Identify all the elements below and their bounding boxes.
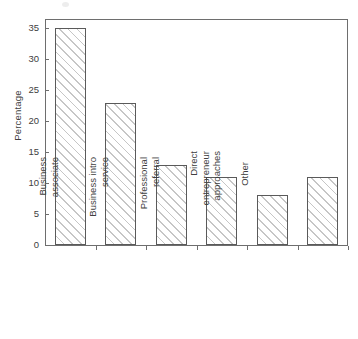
x-axis-tick-mark xyxy=(247,246,248,250)
x-tick-label-line: Other xyxy=(239,162,251,246)
y-tick-label: 10 xyxy=(0,177,39,188)
x-tick-label-line: Professional xyxy=(138,157,150,241)
y-tick-mark xyxy=(45,28,49,29)
x-tick-label-line: associate xyxy=(48,157,60,241)
x-axis-tick-mark xyxy=(96,246,97,250)
y-tick-mark xyxy=(45,152,49,153)
x-tick-label-line: entrepreneur xyxy=(200,151,212,235)
bar-chart-figure: Percentage 05101520253035 Friends/family… xyxy=(0,0,358,339)
x-axis-tick-mark xyxy=(298,246,299,250)
x-tick-label-line: Business intro xyxy=(87,157,99,241)
y-tick-mark xyxy=(45,121,49,122)
x-tick-label-line: Direct xyxy=(188,151,200,235)
scan-artifact-speck xyxy=(62,2,69,7)
y-tick-label: 20 xyxy=(0,115,39,126)
x-axis-tick-mark xyxy=(197,246,198,250)
x-tick-label-line: service xyxy=(99,157,111,241)
y-tick-label: 30 xyxy=(0,53,39,64)
x-tick-label-line: Business xyxy=(37,157,49,241)
x-axis-tick-mark xyxy=(146,246,147,250)
x-tick-label-line: approaches xyxy=(211,151,223,235)
bar xyxy=(257,195,288,245)
y-tick-mark xyxy=(45,245,49,246)
x-axis-tick-mark xyxy=(348,246,349,250)
bar xyxy=(307,177,338,245)
y-tick-mark xyxy=(45,59,49,60)
y-tick-label: 15 xyxy=(0,146,39,157)
y-tick-label: 35 xyxy=(0,22,39,33)
x-tick-label-line: referral xyxy=(149,157,161,241)
y-tick-label: 25 xyxy=(0,84,39,95)
y-tick-label: 5 xyxy=(0,208,39,219)
y-tick-label: 0 xyxy=(0,239,39,250)
y-tick-mark xyxy=(45,90,49,91)
